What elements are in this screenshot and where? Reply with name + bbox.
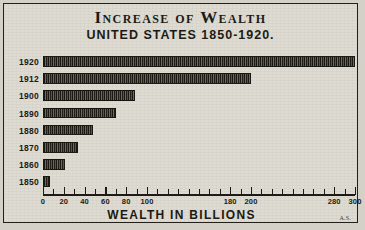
x-tick-90	[137, 189, 138, 195]
x-tick-label-200: 200	[244, 197, 257, 206]
y-axis-label-1912: 1912	[9, 75, 39, 84]
artist-signature: A.S.	[340, 215, 351, 221]
x-tick-210	[261, 189, 262, 195]
bar-row: 1860	[4, 159, 359, 173]
x-tick-260	[313, 189, 314, 195]
y-axis-label-1870: 1870	[9, 144, 39, 153]
y-axis-label-1880: 1880	[9, 127, 39, 136]
x-tick-50	[95, 189, 96, 195]
x-tick-70	[116, 189, 117, 195]
bar-row: 1920	[4, 56, 359, 70]
chart-title: Increase of Wealth	[4, 8, 357, 27]
bar-row: 1900	[4, 90, 359, 104]
bar-row: 1912	[4, 73, 359, 87]
x-tick-190	[241, 189, 242, 195]
x-tick-160	[209, 189, 210, 195]
x-tick-130	[178, 189, 179, 195]
bar-1920	[43, 56, 355, 67]
bar-row: 1880	[4, 125, 359, 139]
chart-inner: Increase of Wealth UNITED STATES 1850-19…	[4, 4, 357, 222]
bar-1880	[43, 125, 93, 136]
x-tick-290	[345, 189, 346, 195]
x-tick-140	[189, 189, 190, 195]
bar-1860	[43, 159, 65, 170]
bar-row: 1890	[4, 108, 359, 122]
x-tick-180	[230, 187, 231, 195]
x-tick-230	[282, 189, 283, 195]
x-tick-10	[53, 189, 54, 195]
chart-frame: Increase of Wealth UNITED STATES 1850-19…	[3, 3, 358, 223]
y-axis-label-1890: 1890	[9, 110, 39, 119]
bar-1912	[43, 73, 251, 84]
x-tick-label-40: 40	[80, 197, 89, 206]
x-tick-220	[272, 189, 273, 195]
x-tick-label-60: 60	[101, 197, 110, 206]
x-tick-label-20: 20	[59, 197, 68, 206]
x-tick-label-100: 100	[140, 197, 153, 206]
y-axis-label-1900: 1900	[9, 92, 39, 101]
y-axis-label-1860: 1860	[9, 161, 39, 170]
x-tick-80	[126, 187, 127, 195]
x-tick-150	[199, 189, 200, 195]
y-axis-label-1920: 1920	[9, 58, 39, 67]
x-tick-label-0: 0	[41, 197, 45, 206]
x-tick-100	[147, 187, 148, 195]
x-tick-label-300: 300	[348, 197, 361, 206]
x-tick-0	[43, 187, 44, 195]
x-tick-250	[303, 189, 304, 195]
x-tick-300	[355, 187, 356, 195]
x-tick-label-280: 280	[328, 197, 341, 206]
plot-area: 19201912190018901880187018601850	[4, 50, 359, 200]
x-tick-30	[74, 189, 75, 195]
title-block: Increase of Wealth UNITED STATES 1850-19…	[4, 8, 357, 42]
x-axis-title: WEALTH IN BILLIONS	[4, 208, 359, 222]
x-tick-280	[334, 187, 335, 195]
x-tick-120	[168, 189, 169, 195]
x-tick-170	[220, 189, 221, 195]
x-tick-40	[85, 187, 86, 195]
x-tick-label-180: 180	[224, 197, 237, 206]
x-tick-110	[157, 189, 158, 195]
x-tick-200	[251, 187, 252, 195]
bar-1890	[43, 108, 116, 119]
x-tick-270	[324, 189, 325, 195]
x-tick-label-80: 80	[122, 197, 131, 206]
x-tick-20	[64, 187, 65, 195]
bar-row: 1870	[4, 142, 359, 156]
x-tick-240	[293, 189, 294, 195]
chart-subtitle: UNITED STATES 1850-1920.	[4, 28, 357, 42]
x-tick-60	[105, 187, 106, 195]
x-axis: WEALTH IN BILLIONS 020406080100180200280…	[4, 186, 359, 226]
bar-1900	[43, 90, 135, 101]
chart-plate: Increase of Wealth UNITED STATES 1850-19…	[0, 0, 365, 230]
bar-1870	[43, 142, 78, 153]
